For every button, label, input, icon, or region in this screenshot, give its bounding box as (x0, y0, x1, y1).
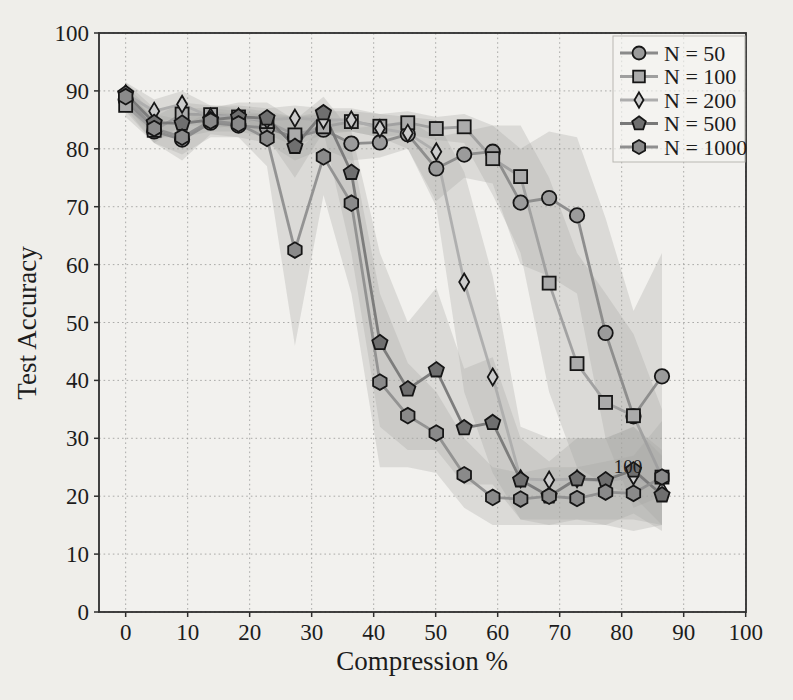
y-tick-label: 0 (78, 600, 90, 625)
square-marker (430, 122, 443, 135)
hexagon-marker (570, 491, 584, 507)
square-marker (514, 170, 527, 183)
circle-marker (598, 326, 612, 340)
x-tick-label: 20 (238, 620, 261, 645)
x-tick-label: 100 (728, 620, 763, 645)
hexagon-marker (373, 374, 387, 390)
y-tick-label: 60 (66, 253, 89, 278)
hexagon-marker (175, 129, 189, 145)
y-tick-label: 100 (55, 21, 90, 46)
circle-marker (429, 161, 443, 175)
y-tick-label: 90 (66, 79, 89, 104)
circle-marker (570, 208, 584, 222)
square-marker (599, 396, 612, 409)
circle-marker (655, 369, 669, 383)
circle-marker (344, 136, 358, 150)
legend-label: N = 500 (664, 111, 736, 136)
x-tick-label: 40 (362, 620, 385, 645)
x-tick-label: 90 (672, 620, 695, 645)
x-tick-label: 10 (176, 620, 199, 645)
square-marker (571, 357, 584, 370)
x-tick-label: 70 (548, 620, 571, 645)
y-axis-title: Test Accuracy (12, 246, 42, 400)
circle-marker (633, 47, 646, 60)
hexagon-marker (147, 121, 161, 137)
circle-marker (513, 195, 527, 209)
y-tick-label: 70 (66, 195, 89, 220)
hexagon-marker (514, 491, 528, 507)
square-marker (458, 120, 471, 133)
y-tick-label: 20 (66, 484, 89, 509)
hexagon-marker (542, 488, 556, 504)
square-marker (543, 277, 556, 290)
x-tick-label: 60 (486, 620, 509, 645)
stray-annotation-text: 100 (614, 456, 643, 477)
x-tick-label: 50 (424, 620, 447, 645)
x-tick-label: 30 (300, 620, 323, 645)
hexagon-marker (401, 408, 415, 424)
hexagon-marker (204, 113, 218, 129)
square-marker (486, 152, 499, 165)
scanned-figure: 0102030405060708090100010203040506070809… (0, 0, 793, 700)
hexagon-marker (627, 486, 641, 502)
hexagon-marker (486, 490, 500, 506)
x-tick-label: 0 (120, 620, 132, 645)
circle-marker (542, 191, 556, 205)
hexagon-marker (119, 89, 132, 105)
hexagon-marker (317, 149, 331, 165)
y-tick-label: 10 (66, 542, 89, 567)
hexagon-marker (599, 484, 613, 500)
legend-label: N = 100 (664, 64, 736, 89)
legend: N = 50N = 100N = 200N = 500N = 1000 (613, 36, 747, 162)
hexagon-marker (633, 140, 645, 154)
legend-label: N = 1000 (664, 135, 747, 160)
y-tick-label: 30 (66, 426, 89, 451)
hexagon-marker (430, 425, 444, 441)
legend-label: N = 50 (664, 41, 725, 66)
y-tick-label: 50 (66, 311, 89, 336)
accuracy-vs-compression-chart: 0102030405060708090100010203040506070809… (0, 0, 793, 700)
hexagon-marker (457, 467, 471, 483)
hexagon-marker (345, 195, 359, 211)
hexagon-marker (232, 116, 246, 132)
square-marker (627, 409, 640, 422)
x-axis-title: Compression % (336, 646, 508, 676)
y-tick-label: 80 (66, 137, 89, 162)
y-tick-label: 40 (66, 368, 89, 393)
circle-marker (457, 147, 471, 161)
hexagon-marker (260, 131, 274, 147)
legend-label: N = 200 (664, 88, 736, 113)
x-tick-label: 80 (610, 620, 633, 645)
square-marker (633, 71, 645, 83)
hexagon-marker (655, 469, 669, 485)
hexagon-marker (288, 242, 302, 258)
